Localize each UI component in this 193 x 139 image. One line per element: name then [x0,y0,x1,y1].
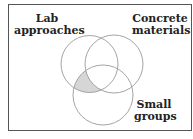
label-small-groups: Small groups [134,99,174,123]
circle-concrete-materials [85,35,143,93]
label-lab-approaches: Lab approaches [14,13,80,37]
label-line: approaches [14,25,80,37]
label-line: groups [134,111,174,123]
label-concrete-materials: Concrete materials [132,13,188,37]
label-line: materials [132,25,188,37]
